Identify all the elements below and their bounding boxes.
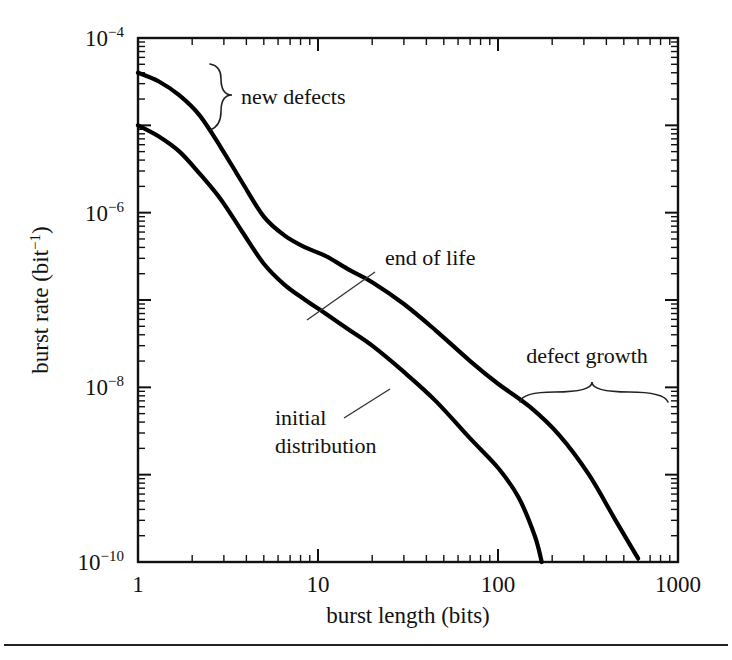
y-axis-title-base: burst rate (bit <box>28 249 53 374</box>
plot-frame <box>138 38 678 562</box>
y-tick-labels: 10−410−610−810−10 <box>78 24 125 575</box>
initial-distribution-label-line2: distribution <box>275 433 376 458</box>
new-defects-label: new defects <box>241 84 345 109</box>
defect-growth-label: defect growth <box>526 343 648 368</box>
x-axis-ticks <box>138 38 678 562</box>
figure-container: 1101001000 10−410−610−810−10 burst lengt… <box>0 0 732 660</box>
annotation-end-of-life: end of life <box>307 245 475 320</box>
curve-initial-distribution <box>138 125 542 562</box>
x-tick-label: 10 <box>307 572 330 597</box>
curve-end-of-life <box>138 73 638 559</box>
x-tick-label: 1 <box>132 572 144 597</box>
y-axis-title-group: burst rate (bit−1) <box>27 226 53 374</box>
new-defects-brace <box>210 64 232 130</box>
y-axis-title: burst rate (bit−1) <box>27 226 53 374</box>
initial-distribution-leader-line <box>344 389 390 418</box>
defect-growth-brace <box>520 382 668 402</box>
y-tick-label: 10−6 <box>85 199 124 226</box>
y-axis-title-exponent: −1 <box>27 234 43 250</box>
annotation-defect-growth: defect growth <box>520 343 668 402</box>
axes-frame <box>138 38 678 562</box>
x-tick-label: 100 <box>481 572 516 597</box>
y-tick-label: 10−4 <box>85 24 124 51</box>
end-of-life-label: end of life <box>385 245 475 270</box>
end-of-life-leader-line <box>307 272 375 320</box>
chart-canvas: 1101001000 10−410−610−810−10 burst lengt… <box>0 0 732 660</box>
annotation-initial-distribution: initial distribution <box>275 389 390 458</box>
y-axis-ticks <box>138 38 678 562</box>
annotation-new-defects: new defects <box>210 64 345 130</box>
initial-distribution-label-line1: initial <box>275 405 326 430</box>
x-tick-label: 1000 <box>655 572 701 597</box>
y-tick-label: 10−10 <box>78 548 124 575</box>
y-axis-title-tail: ) <box>28 226 53 234</box>
y-tick-label: 10−8 <box>85 373 124 400</box>
x-axis-title: burst length (bits) <box>326 603 490 628</box>
x-tick-labels: 1101001000 <box>132 572 701 597</box>
